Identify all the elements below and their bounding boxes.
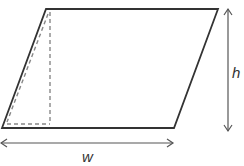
- dashed-triangle: [7, 12, 50, 124]
- width-label: w: [82, 148, 94, 165]
- width-arrow: [1, 139, 173, 147]
- dashed-slant-line: [7, 14, 48, 122]
- height-arrow: [224, 9, 232, 131]
- height-label: h: [232, 64, 240, 81]
- parallelogram-shape: [2, 9, 218, 128]
- parallelogram-diagram: h w: [0, 0, 244, 166]
